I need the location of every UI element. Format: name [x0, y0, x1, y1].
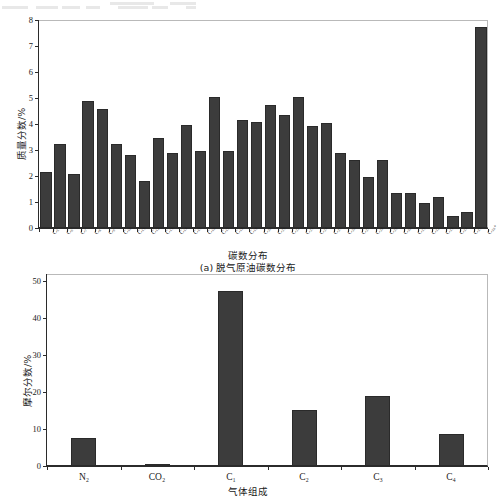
bar — [377, 160, 388, 228]
plot-area-b: 01020304050 N₂CO₂C₁C₂C₃C₄ 摩尔分数/% — [0, 262, 496, 498]
bar — [195, 151, 206, 228]
y-tick-label: 10 — [17, 425, 41, 434]
bar — [237, 120, 248, 228]
bar — [54, 144, 65, 229]
x-tick-label: C₁ — [207, 473, 255, 483]
bar — [279, 115, 290, 228]
y-axis-title-b: 摩尔分数/% — [20, 355, 34, 407]
bar — [365, 396, 390, 466]
bar — [433, 197, 444, 228]
bar — [251, 122, 262, 228]
bar — [209, 97, 220, 228]
bar — [293, 97, 304, 228]
bar — [223, 151, 234, 228]
bar — [321, 123, 332, 228]
bar — [363, 177, 374, 228]
bar — [265, 105, 276, 229]
x-tick-label: C₄ — [427, 473, 475, 483]
x-tick-mark — [194, 467, 195, 470]
scan-artifact-band — [0, 0, 496, 10]
x-tick-mark — [341, 467, 342, 470]
y-tick-label: 8 — [9, 16, 33, 25]
bar-group-a — [39, 20, 488, 228]
bar — [405, 193, 416, 228]
figure-gas-composition: 01020304050 N₂CO₂C₁C₂C₃C₄ 摩尔分数/% 气体组成 — [0, 262, 496, 498]
x-tick-mark — [488, 467, 489, 470]
bar-group-b — [47, 274, 488, 466]
bar — [139, 181, 150, 228]
y-tick-label: 50 — [17, 277, 41, 286]
bar — [125, 155, 136, 228]
x-tick-mark — [47, 467, 48, 470]
x-tick-label: CO₂ — [133, 473, 181, 483]
y-tick-label: 0 — [17, 462, 41, 471]
y-tick-label: 0 — [9, 224, 33, 233]
bar — [68, 174, 79, 228]
bar — [307, 126, 318, 228]
bar — [181, 125, 192, 228]
bar — [349, 160, 360, 228]
figure-carbon-number-distribution: 012345678 C₅C₆C₇C₈C₉C₁₀C₁₁C₁₂C₁₃C₁₄C₁₅C₁… — [0, 10, 496, 262]
y-tick-label: 2 — [9, 172, 33, 181]
y-axis-title-a: 质量分数/% — [14, 108, 28, 160]
bar — [40, 172, 51, 228]
bar — [97, 109, 108, 228]
bar — [153, 138, 164, 228]
y-tick-label: 1 — [9, 198, 33, 207]
x-tick-label: C₂ — [280, 473, 328, 483]
bar — [167, 153, 178, 228]
bar — [292, 410, 317, 466]
y-tick-label: 5 — [9, 94, 33, 103]
x-tick-mark — [268, 467, 269, 470]
bar — [82, 101, 93, 228]
bar — [71, 438, 96, 466]
y-tick-label: 40 — [17, 314, 41, 323]
x-tick-label: N₂ — [60, 473, 108, 483]
bar — [145, 464, 170, 466]
y-tick-label: 7 — [9, 42, 33, 51]
bar — [439, 434, 464, 466]
x-tick-label: C₃ — [354, 473, 402, 483]
bar — [419, 203, 430, 228]
bar — [111, 144, 122, 228]
bar — [475, 27, 486, 228]
x-tick-mark — [415, 467, 416, 470]
x-tick-mark — [39, 229, 40, 232]
bar — [218, 291, 243, 466]
x-axis-line-b — [46, 466, 488, 467]
plot-area-a: 012345678 C₅C₆C₇C₈C₉C₁₀C₁₁C₁₂C₁₃C₁₄C₁₅C₁… — [0, 10, 496, 262]
x-axis-title-b: 气体组成 — [0, 484, 496, 498]
bar — [335, 153, 346, 228]
bar — [391, 193, 402, 228]
x-tick-mark — [121, 467, 122, 470]
y-tick-label: 6 — [9, 68, 33, 77]
